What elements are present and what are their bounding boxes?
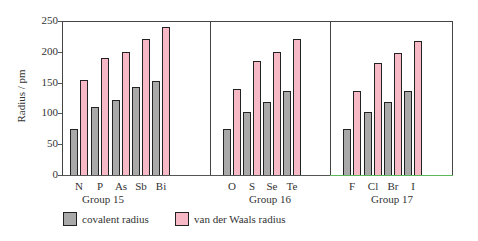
vdw-bar-O [233,89,241,175]
legend-swatch-vdw [175,212,189,226]
legend-label-covalent: covalent radius [82,213,149,225]
covalent-bar-Te [283,91,291,175]
covalent-bar-Se [263,102,271,175]
covalent-bar-N [70,129,78,175]
covalent-bar-S [243,112,251,175]
group-label: Group 17 [352,193,432,205]
covalent-bar-Br [384,102,392,175]
y-tick-mark [58,52,62,53]
y-tick-mark [58,175,62,176]
y-tick-label: 0 [30,169,58,180]
x-tick-label: Te [277,180,307,192]
group-label: Group 16 [230,193,310,205]
covalent-bar-F [343,129,351,175]
vdw-bar-I [414,41,422,175]
vdw-bar-Te [293,39,301,175]
vdw-bar-S [253,61,261,175]
covalent-bar-As [112,100,120,175]
vdw-bar-Cl [374,63,382,175]
group-divider [210,21,211,175]
x-tick-label: I [398,180,428,192]
legend-swatch-covalent [63,212,77,226]
vdw-bar-N [80,80,88,175]
y-tick-label: 150 [30,77,58,88]
x-tick-label: Bi [146,180,176,192]
vdw-bar-F [353,91,361,175]
bar-chart: Radius / pm 050100150200250 NPAsSbBiOSSe… [0,0,478,241]
vdw-bar-Sb [142,39,150,175]
y-tick-label: 200 [30,46,58,57]
covalent-bar-Bi [152,81,160,175]
vdw-bar-Bi [162,27,170,175]
group-divider [330,21,331,175]
y-tick-mark [58,144,62,145]
covalent-bar-O [223,129,231,175]
covalent-bar-P [91,107,99,175]
vdw-bar-As [122,52,130,175]
covalent-bar-Cl [364,112,372,175]
x-axis-line-segment [330,175,453,176]
y-tick-mark [58,21,62,22]
covalent-bar-I [404,91,412,175]
vdw-bar-Se [273,52,281,175]
vdw-bar-Br [394,53,402,175]
y-tick-label: 100 [30,107,58,118]
y-tick-mark [58,83,62,84]
y-axis-label: Radius / pm [15,69,27,122]
y-tick-label: 50 [30,138,58,149]
y-tick-mark [58,113,62,114]
y-tick-label: 250 [30,15,58,26]
group-label: Group 15 [63,193,143,205]
legend-label-vdw: van der Waals radius [194,213,285,225]
vdw-bar-P [101,58,109,175]
covalent-bar-Sb [132,87,140,175]
